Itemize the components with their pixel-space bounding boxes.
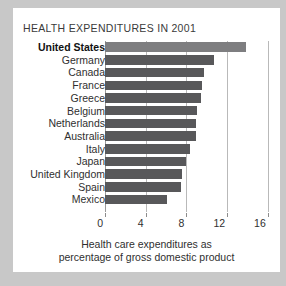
value-axis-ticks: 0481216 [105,213,280,231]
category-label: Italy [86,143,105,156]
bar [105,195,167,205]
bar [105,68,204,78]
tick-mark-0 [105,213,106,217]
bar [105,144,190,154]
bar [105,157,186,167]
category-label: France [72,79,105,92]
tick-label-12: 12 [213,217,227,229]
category-label: Greece [71,92,105,105]
bar [105,182,181,192]
screenshot-root: HEALTH EXPENDITURES IN 2001 United State… [0,0,286,286]
category-label: Australia [64,130,105,143]
tick-label-8: 8 [179,217,187,229]
category-label: Spain [78,181,105,194]
category-label: United States [38,41,105,54]
category-label: Mexico [72,193,105,206]
chart-caption: Health care expenditures as percentage o… [13,238,280,264]
chart-title: HEALTH EXPENDITURES IN 2001 [23,22,196,34]
tick-mark-16 [268,213,269,217]
category-label: Belgium [67,105,105,118]
bars-container [105,41,280,213]
tick-mark-8 [186,213,187,217]
tick-mark-12 [227,213,228,217]
tick-mark-4 [146,213,147,217]
bar [105,119,196,129]
tick-label-0: 0 [97,217,105,229]
chart-card: HEALTH EXPENDITURES IN 2001 United State… [13,8,280,272]
bar [105,93,201,103]
bar [105,169,182,179]
plot-area: United StatesGermanyCanadaFranceGreeceBe… [13,41,280,221]
caption-line-2: percentage of gross domestic product [13,251,280,264]
tick-label-16: 16 [254,217,268,229]
category-label: United Kingdom [30,168,105,181]
tick-label-4: 4 [138,217,146,229]
bar [105,106,197,116]
category-label: Canada [68,66,105,79]
bar [105,55,214,65]
gridline-12 [227,41,228,212]
bar [105,42,246,52]
gridline-16 [268,41,269,212]
bar [105,81,202,91]
bar [105,131,196,141]
category-label: Netherlands [48,117,105,130]
caption-line-1: Health care expenditures as [13,238,280,251]
category-label: Germany [62,54,105,67]
category-label: Japan [76,155,105,168]
category-axis-labels: United StatesGermanyCanadaFranceGreeceBe… [13,41,105,213]
